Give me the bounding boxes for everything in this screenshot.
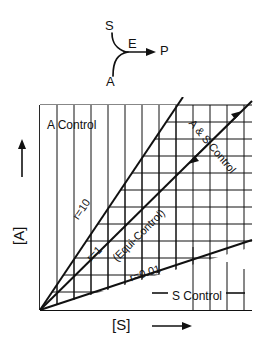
scheme-product-label: P (160, 43, 169, 58)
cosubstrate-curve (113, 52, 128, 76)
figure-root: S A E P (0, 0, 261, 357)
label-s-control: S Control (172, 289, 222, 303)
as-control-arrow-head-end-icon (231, 111, 242, 119)
y-axis-title: [A] (10, 227, 27, 245)
y-axis-arrow-head-icon (18, 139, 26, 149)
scheme-substrate-label: S (105, 18, 114, 33)
substrate-curve (112, 33, 126, 52)
plot-area (0, 97, 261, 357)
x-axis-title: [S] (112, 316, 130, 333)
scheme-enzyme-label: E (128, 36, 137, 51)
label-a-control: A Control (47, 118, 96, 132)
x-axis-arrow-head-icon (182, 322, 192, 330)
scheme-cosubstrate-label: A (106, 74, 115, 89)
reaction-arrow-head-icon (146, 48, 156, 56)
